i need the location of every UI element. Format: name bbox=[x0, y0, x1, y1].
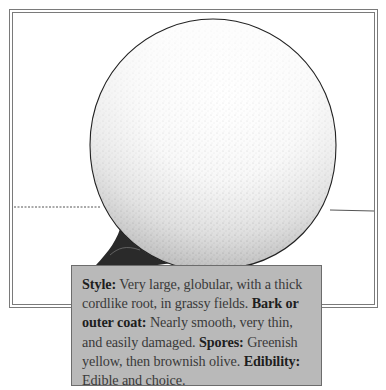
horizon-line-right bbox=[330, 210, 374, 211]
caption-label-spores: Spores: bbox=[199, 334, 244, 350]
caption-text-edibility: Edible and choice. bbox=[82, 372, 185, 388]
caption-box: Style: Very large, globular, with a thic… bbox=[71, 265, 322, 386]
caption-label-edibility: Edibility: bbox=[244, 353, 301, 369]
caption-label-style: Style: bbox=[82, 276, 116, 292]
